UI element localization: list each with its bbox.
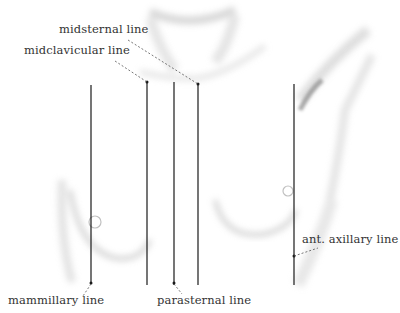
label-midsternal: midsternal line (59, 22, 148, 36)
arm-shading (298, 30, 372, 285)
anatomy-figure: midsternal line midclavicular line mammi… (0, 0, 400, 313)
leader-dots (90, 81, 296, 285)
reference-lines (91, 82, 294, 285)
label-ant-axillary: ant. axillary line (302, 232, 398, 246)
left-breast-shading (62, 180, 150, 282)
label-midclavicular: midclavicular line (24, 43, 130, 57)
label-mammillary: mammillary line (8, 293, 104, 307)
neck-shading (140, 10, 265, 78)
right-nipple (283, 186, 293, 196)
label-parasternal: parasternal line (157, 293, 251, 307)
right-breast-shading (215, 200, 296, 235)
